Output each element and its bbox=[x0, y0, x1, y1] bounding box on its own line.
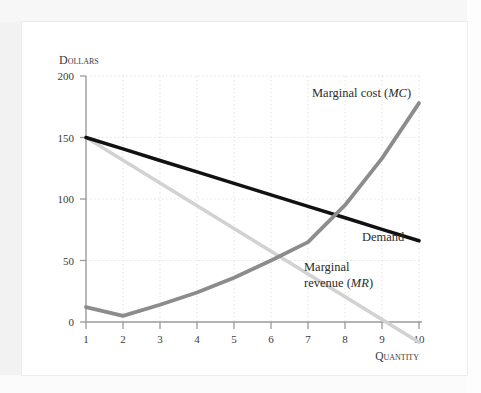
page-margin-right bbox=[467, 0, 481, 393]
x-tick-label-6: 6 bbox=[268, 333, 274, 345]
page-margin-bottom bbox=[0, 375, 481, 393]
x-tick-label-7: 7 bbox=[305, 333, 311, 345]
x-tick-marks bbox=[86, 322, 419, 329]
x-tick-label-5: 5 bbox=[231, 333, 237, 345]
x-tick-label-4: 4 bbox=[194, 333, 200, 345]
x-tick-label-2: 2 bbox=[120, 333, 126, 345]
y-tick-label-150: 150 bbox=[58, 132, 75, 144]
y-tick-label-50: 50 bbox=[63, 255, 75, 267]
y-axis-title: Dollars bbox=[59, 53, 99, 67]
demand-label: Demand bbox=[362, 230, 405, 244]
y-tick-label-100: 100 bbox=[58, 193, 75, 205]
figure-plate: Dollars 200 150 100 50 0 1 2 3 4 5 6 7 8… bbox=[22, 22, 467, 375]
chart-svg: Dollars 200 150 100 50 0 1 2 3 4 5 6 7 8… bbox=[22, 22, 467, 375]
y-tick-label-200: 200 bbox=[58, 70, 75, 82]
y-tick-marks bbox=[80, 76, 86, 322]
monopoly-chart: Dollars 200 150 100 50 0 1 2 3 4 5 6 7 8… bbox=[22, 22, 467, 375]
y-tick-label-0: 0 bbox=[69, 316, 75, 328]
x-tick-label-9: 9 bbox=[379, 333, 385, 345]
marginal-revenue-label-line1: Marginal bbox=[304, 260, 350, 274]
x-axis-title: Quantity bbox=[375, 350, 419, 362]
x-tick-label-3: 3 bbox=[157, 333, 163, 345]
x-tick-label-8: 8 bbox=[342, 333, 348, 345]
x-tick-label-1: 1 bbox=[83, 333, 89, 345]
page-margin-left bbox=[0, 0, 22, 393]
marginal-revenue-label-line2: revenue (MR) bbox=[304, 276, 373, 290]
page-root: Dollars 200 150 100 50 0 1 2 3 4 5 6 7 8… bbox=[0, 0, 481, 393]
page-margin-top bbox=[0, 0, 481, 22]
marginal-cost-label: Marginal cost (MC) bbox=[312, 86, 411, 100]
demand-curve bbox=[86, 138, 419, 241]
